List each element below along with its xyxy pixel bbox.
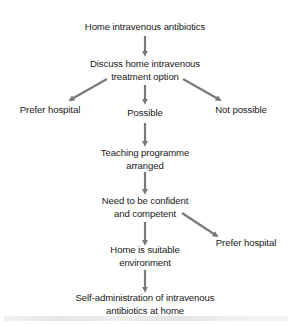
node-confident-competent: Need to be confident and competent (102, 195, 189, 220)
node-text: arranged (101, 160, 189, 173)
node-prefer-hospital-2: Prefer hospital (216, 237, 276, 250)
node-text: treatment option (90, 71, 200, 84)
node-text: Self-administration of intravenous (76, 292, 215, 305)
node-text: Home intravenous antibiotics (85, 21, 205, 34)
node-text: Teaching programme (101, 147, 189, 160)
node-teaching-programme: Teaching programme arranged (101, 147, 189, 172)
faded-caption (4, 316, 288, 321)
node-prefer-hospital-1: Prefer hospital (20, 104, 80, 117)
node-text: Prefer hospital (20, 104, 80, 117)
node-text: Prefer hospital (216, 237, 276, 250)
node-text: Home is suitable (110, 244, 179, 257)
node-text: Not possible (215, 104, 267, 117)
node-possible: Possible (127, 107, 162, 120)
node-discuss-treatment-option: Discuss home intravenous treatment optio… (90, 58, 200, 83)
node-not-possible: Not possible (215, 104, 267, 117)
node-home-intravenous-antibiotics: Home intravenous antibiotics (85, 21, 205, 34)
node-text: environment (110, 257, 179, 270)
node-text: Discuss home intravenous (90, 58, 200, 71)
node-text: Possible (127, 107, 162, 120)
node-home-suitable-environment: Home is suitable environment (110, 244, 179, 269)
node-text: and competent (102, 208, 189, 221)
node-text: Need to be confident (102, 195, 189, 208)
flowchart: Home intravenous antibiotics Discuss hom… (0, 0, 293, 326)
node-self-administration: Self-administration of intravenous antib… (76, 292, 215, 317)
